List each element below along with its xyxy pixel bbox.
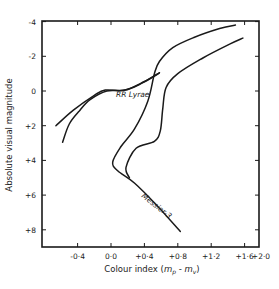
x-axis-label: Colour index (mp - mv) — [104, 264, 199, 276]
y-tick-label: -2 — [29, 52, 37, 61]
curve-series-0 — [113, 25, 236, 231]
y-axis-label: Absolute visual magnitude — [4, 78, 14, 191]
y-axis-ticks: -4-20+2+4+6+8 — [25, 18, 259, 235]
plot-frame — [42, 21, 259, 247]
x-tick-label: +0·4 — [135, 252, 153, 261]
rr-lyrae-label: RR Lyrae — [116, 90, 150, 99]
x-tick-label: 0·0 — [105, 252, 117, 261]
curve-series-1 — [126, 38, 243, 178]
y-tick-label: +2 — [25, 122, 36, 131]
x-axis-ticks: -0·40·0+0·4+0·8+1·2+1·6+2·0 — [70, 21, 270, 261]
x-tick-label: +1·2 — [202, 252, 220, 261]
x-tick-label: -0·4 — [70, 252, 85, 261]
x-tick-label: +0·8 — [169, 252, 187, 261]
curve-series-2 — [56, 73, 159, 126]
hr-diagram-chart: -0·40·0+0·4+0·8+1·2+1·6+2·0 -4-20+2+4+6+… — [0, 0, 279, 289]
y-tick-label: -4 — [29, 18, 37, 27]
y-tick-label: +8 — [25, 226, 36, 235]
y-tick-label: +4 — [25, 156, 36, 165]
messier-3-label: Messier-3 — [140, 191, 174, 220]
y-tick-label: +6 — [25, 191, 36, 200]
x-tick-label: +2·0 — [252, 252, 270, 261]
y-tick-label: 0 — [31, 87, 36, 96]
